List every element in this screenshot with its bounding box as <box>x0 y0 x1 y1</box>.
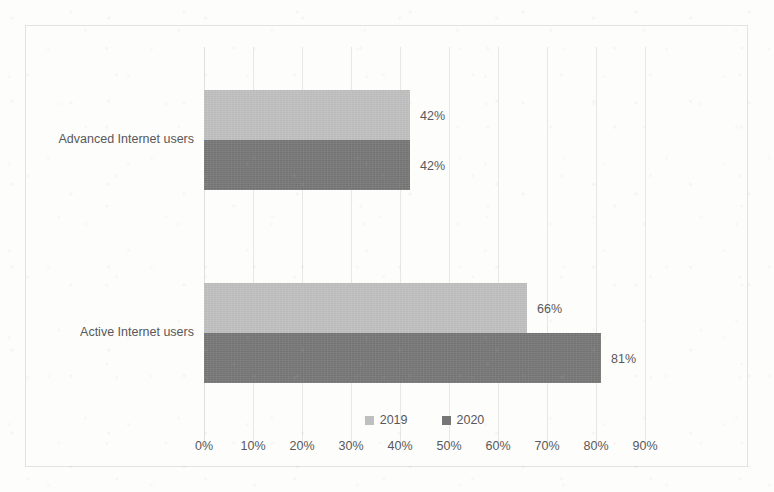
gridline-90 <box>645 47 646 445</box>
bar-texture <box>204 90 410 140</box>
legend-label-2020: 2020 <box>457 414 485 427</box>
xtick-label-50: 50% <box>436 440 461 453</box>
xtick-label-10: 10% <box>240 440 265 453</box>
data-label-advanced-2019: 42% <box>420 110 445 123</box>
bar-advanced-internet-users-2020[interactable] <box>204 140 410 190</box>
bar-advanced-internet-users-2019[interactable] <box>204 90 410 140</box>
xtick-label-90: 90% <box>632 440 657 453</box>
data-label-active-2019: 66% <box>537 303 562 316</box>
bar-texture <box>204 140 410 190</box>
legend-label-2019: 2019 <box>380 414 408 427</box>
xtick-label-30: 30% <box>338 440 363 453</box>
category-label-advanced-internet-users: Advanced Internet users <box>30 133 194 146</box>
plot-area: 42% 42% 66% 81% <box>204 47 645 445</box>
xtick-label-70: 70% <box>534 440 559 453</box>
bar-active-internet-users-2020[interactable] <box>204 333 601 383</box>
xtick-label-20: 20% <box>289 440 314 453</box>
xtick-label-0: 0% <box>195 440 213 453</box>
bar-active-internet-users-2019[interactable] <box>204 283 527 333</box>
bar-texture <box>204 333 601 383</box>
chart-page: Advanced Internet users Active Internet … <box>0 0 774 492</box>
xtick-label-80: 80% <box>583 440 608 453</box>
legend-swatch-icon-2019 <box>365 416 374 425</box>
legend-swatch-icon-2020 <box>442 416 451 425</box>
xtick-label-60: 60% <box>485 440 510 453</box>
gridline-80 <box>596 47 597 445</box>
legend-item-2020[interactable]: 2020 <box>442 414 485 427</box>
gridline-50 <box>449 47 450 445</box>
category-label-active-internet-users: Active Internet users <box>30 326 194 339</box>
chart-legend: 2019 2020 <box>204 414 645 427</box>
data-label-advanced-2020: 42% <box>420 160 445 173</box>
xtick-label-40: 40% <box>387 440 412 453</box>
gridline-70 <box>547 47 548 445</box>
gridline-60 <box>498 47 499 445</box>
bar-texture <box>204 283 527 333</box>
legend-item-2019[interactable]: 2019 <box>365 414 408 427</box>
data-label-active-2020: 81% <box>611 353 636 366</box>
